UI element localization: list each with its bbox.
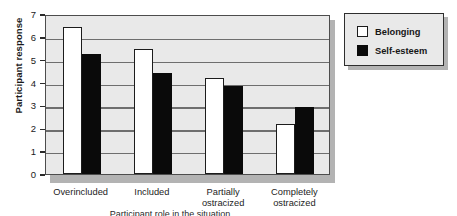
y-tick-label-7: 7 [16, 10, 36, 20]
x-axis-label-4-line-2: ostracized [251, 198, 337, 209]
legend-swatch-selfesteem [357, 45, 368, 56]
bar-belonging-4 [276, 124, 295, 174]
bar-belonging-1 [63, 27, 82, 174]
x-axis-label-4-line-1: Completely [251, 187, 337, 198]
bars-layer [46, 16, 329, 174]
bar-belonging-3 [205, 78, 224, 174]
legend-label-selfesteem: Self-esteem [375, 46, 427, 56]
y-tick-label-2: 2 [16, 124, 36, 134]
y-tick-label-0: 0 [16, 170, 36, 180]
legend-swatch-belonging [357, 26, 368, 37]
figure-caption-clipped: Participant role in the situation [0, 209, 340, 216]
y-tick-label-1: 1 [16, 147, 36, 157]
x-axis-label-4: Completelyostracized [251, 187, 337, 208]
y-tick-label-3: 3 [16, 101, 36, 111]
legend-label-belonging: Belonging [375, 27, 420, 37]
legend-item-belonging: Belonging [357, 23, 443, 40]
bar-self-esteem-1 [82, 54, 101, 174]
plot-area [45, 15, 330, 175]
bar-self-esteem-4 [295, 107, 314, 174]
bar-self-esteem-2 [153, 73, 172, 174]
y-tick-label-4: 4 [16, 79, 36, 89]
legend-item-selfesteem: Self-esteem [357, 42, 443, 59]
y-tick-label-6: 6 [16, 33, 36, 43]
bar-belonging-2 [134, 49, 153, 174]
y-tick-label-5: 5 [16, 56, 36, 66]
chart-legend: BelongingSelf-esteem [344, 13, 444, 66]
bar-self-esteem-3 [224, 86, 243, 174]
